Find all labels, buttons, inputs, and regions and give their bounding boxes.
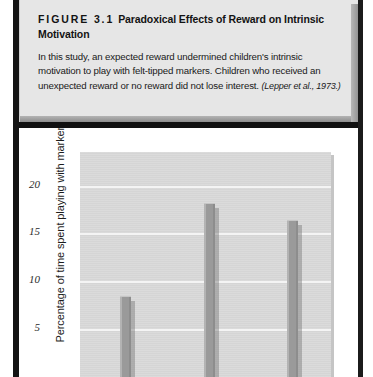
- figure-page: FIGURE 3.1Paradoxical Effects of Reward …: [0, 0, 373, 377]
- bar: [287, 220, 298, 377]
- y-axis-tick-label: 15: [19, 225, 40, 237]
- page-left-margin: [0, 0, 13, 377]
- caption-shadow: [351, 4, 358, 122]
- figure-caption-inner: FIGURE 3.1Paradoxical Effects of Reward …: [38, 12, 343, 93]
- y-axis-title: Percentage of time spent playing with ma…: [54, 128, 66, 347]
- y-axis-tick-label: 5: [19, 321, 40, 333]
- y-axis-tick-label: 10: [19, 273, 40, 285]
- figure-description: In this study, an expected reward underm…: [38, 50, 343, 93]
- figure-heading: FIGURE 3.1Paradoxical Effects of Reward …: [38, 12, 343, 41]
- y-axis-tick-label: 20: [19, 178, 40, 190]
- plot-area: [80, 152, 331, 377]
- gridline: [80, 186, 331, 188]
- bar: [204, 203, 215, 377]
- figure-caption-box: FIGURE 3.1Paradoxical Effects of Reward …: [19, 0, 358, 122]
- figure-citation: (Lepper et al., 1973.): [261, 81, 340, 91]
- page-right-margin: [363, 0, 373, 377]
- figure-number: FIGURE 3.1: [38, 13, 114, 25]
- bar-chart: Percentage of time spent playing with ma…: [19, 128, 358, 377]
- bar: [120, 296, 131, 377]
